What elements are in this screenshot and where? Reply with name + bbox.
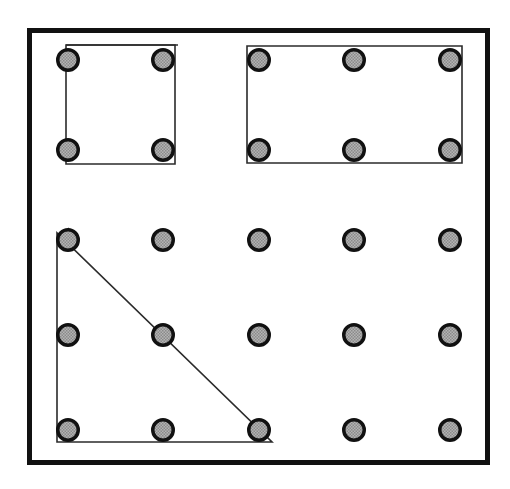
peg-icon[interactable] — [249, 140, 270, 161]
geoboard-canvas — [0, 0, 510, 489]
peg-icon[interactable] — [58, 140, 79, 161]
peg-icon[interactable] — [153, 50, 174, 71]
geoboard-figure: Geoboard with shapes — [0, 0, 510, 489]
peg-icon[interactable] — [344, 140, 365, 161]
peg-icon[interactable] — [249, 420, 270, 441]
peg-icon[interactable] — [58, 50, 79, 71]
peg-icon[interactable] — [440, 140, 461, 161]
peg-icon[interactable] — [58, 325, 79, 346]
peg-icon[interactable] — [249, 230, 270, 251]
peg-icon[interactable] — [58, 420, 79, 441]
peg-icon[interactable] — [344, 325, 365, 346]
peg-icon[interactable] — [153, 325, 174, 346]
peg-icon[interactable] — [440, 50, 461, 71]
peg-icon[interactable] — [249, 50, 270, 71]
peg-icon[interactable] — [58, 230, 79, 251]
peg-icon[interactable] — [153, 140, 174, 161]
peg-icon[interactable] — [440, 230, 461, 251]
peg-icon[interactable] — [153, 230, 174, 251]
peg-icon[interactable] — [344, 420, 365, 441]
peg-icon[interactable] — [440, 325, 461, 346]
peg-icon[interactable] — [344, 230, 365, 251]
peg-icon[interactable] — [153, 420, 174, 441]
peg-icon[interactable] — [440, 420, 461, 441]
peg-icon[interactable] — [344, 50, 365, 71]
peg-icon[interactable] — [249, 325, 270, 346]
